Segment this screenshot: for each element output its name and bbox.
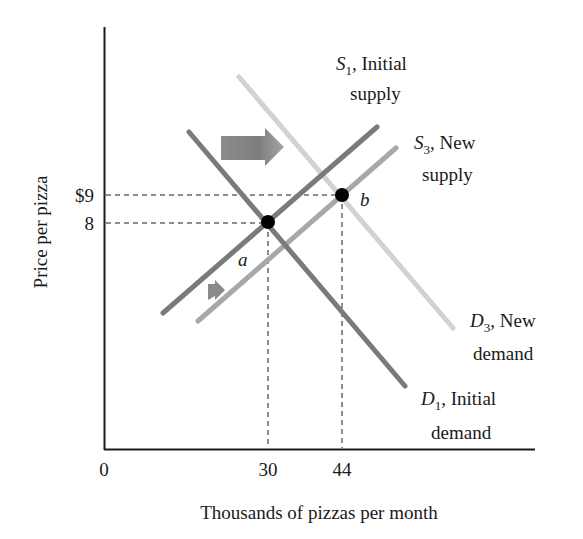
- label-d1-line2: demand: [431, 422, 492, 443]
- label-s1-line2: supply: [350, 83, 401, 104]
- label-s1-main: S: [336, 53, 346, 74]
- label-s1: S1, Initial supply: [336, 53, 407, 104]
- y-axis-title: Price per pizza: [30, 175, 51, 288]
- label-s3-rest: , New: [430, 132, 476, 153]
- svg-text:D3, New: D3, New: [469, 310, 536, 335]
- y-tick-8: 8: [85, 213, 95, 234]
- x-tick-44: 44: [333, 459, 353, 480]
- label-s3-line2: supply: [422, 164, 473, 185]
- equilibrium-point-a: [261, 215, 275, 229]
- label-s3: S3, New supply: [414, 132, 476, 185]
- svg-text:S1, Initial: S1, Initial: [336, 53, 407, 78]
- label-d1-main: D: [420, 388, 435, 409]
- point-a-label: a: [238, 249, 248, 270]
- label-d3: D3, New demand: [469, 310, 536, 364]
- supply-demand-chart: a b $9 8 0 30 44 Thousands of pizzas per…: [0, 0, 583, 539]
- label-d3-rest: , New: [490, 310, 536, 331]
- label-d3-line2: demand: [473, 343, 534, 364]
- curve-d3-new-demand: [239, 77, 453, 328]
- y-tick-9: $9: [75, 185, 94, 206]
- label-s1-rest: , Initial: [352, 53, 407, 74]
- x-tick-30: 30: [259, 459, 278, 480]
- demand-shift-arrow-icon: [221, 128, 284, 166]
- guide-lines: [106, 195, 342, 448]
- x-axis-title: Thousands of pizzas per month: [200, 502, 438, 523]
- label-d3-main: D: [469, 310, 484, 331]
- label-d1: D1, Initial demand: [420, 388, 496, 443]
- label-d1-rest: , Initial: [441, 388, 496, 409]
- x-tick-origin: 0: [99, 459, 109, 480]
- equilibrium-point-b: [335, 188, 349, 202]
- label-s3-main: S: [414, 132, 424, 153]
- point-b-label: b: [360, 189, 370, 210]
- svg-text:D1, Initial: D1, Initial: [420, 388, 496, 413]
- svg-text:S3, New: S3, New: [414, 132, 476, 157]
